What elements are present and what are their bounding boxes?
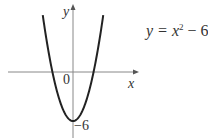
y-intercept-label: −6 — [74, 118, 89, 134]
x-axis-label: x — [128, 76, 134, 92]
equation-lhs: y = x — [146, 22, 179, 39]
equation-label: y = x2 − 6 — [146, 22, 208, 40]
origin-label: 0 — [63, 72, 70, 88]
y-axis-arrow-icon — [71, 4, 76, 10]
x-axis-arrow-icon — [133, 70, 139, 75]
graph-canvas — [0, 0, 208, 138]
equation-rhs: − 6 — [184, 22, 209, 39]
y-axis-label: y — [63, 4, 69, 20]
